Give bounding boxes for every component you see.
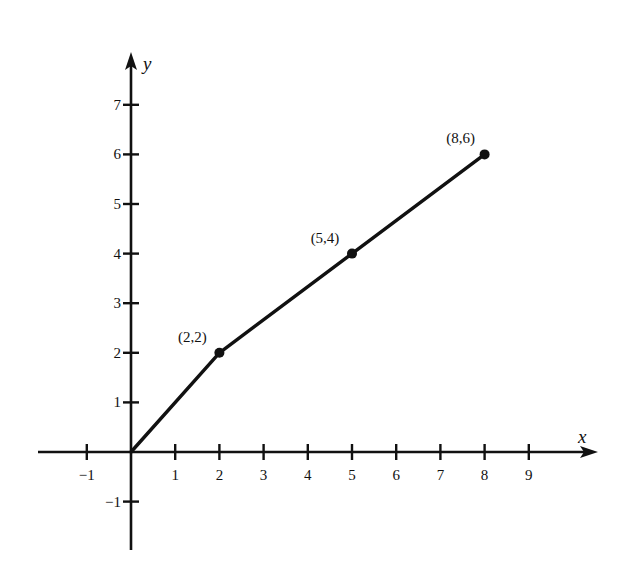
x-axis-label: x [577,426,587,447]
y-tick-label: 7 [114,97,122,113]
point-annotation: (5,4) [311,230,340,247]
data-point-marker [214,348,224,358]
y-axis-label: y [141,53,152,74]
x-tick-label: 1 [171,467,179,483]
y-tick-label: 2 [114,345,122,361]
data-series [131,149,490,452]
ticks: −1123456789−11234567 [79,97,533,510]
line-chart: −1123456789−11234567 xy(2,2)(5,4)(8,6) [0,0,620,570]
point-annotation: (8,6) [446,130,475,147]
point-annotation: (2,2) [178,329,207,346]
axes [38,52,598,550]
x-tick-label: 3 [260,467,268,483]
x-tick-label: 7 [437,467,445,483]
x-tick-label: 6 [392,467,400,483]
y-tick-label: 6 [114,146,122,162]
x-tick-label: 2 [216,467,224,483]
data-point-marker [347,249,357,259]
y-tick-label: 1 [114,394,122,410]
x-tick-label: 5 [348,467,356,483]
y-tick-label: 5 [114,196,122,212]
x-tick-label: 9 [525,467,533,483]
series-line [131,154,485,452]
y-tick-label: 4 [114,246,122,262]
x-tick-label: 8 [481,467,489,483]
labels: xy(2,2)(5,4)(8,6) [141,53,587,447]
y-tick-label: −1 [105,494,121,510]
x-tick-label: −1 [79,467,95,483]
x-tick-label: 4 [304,467,312,483]
data-point-marker [480,149,490,159]
y-tick-label: 3 [114,295,122,311]
